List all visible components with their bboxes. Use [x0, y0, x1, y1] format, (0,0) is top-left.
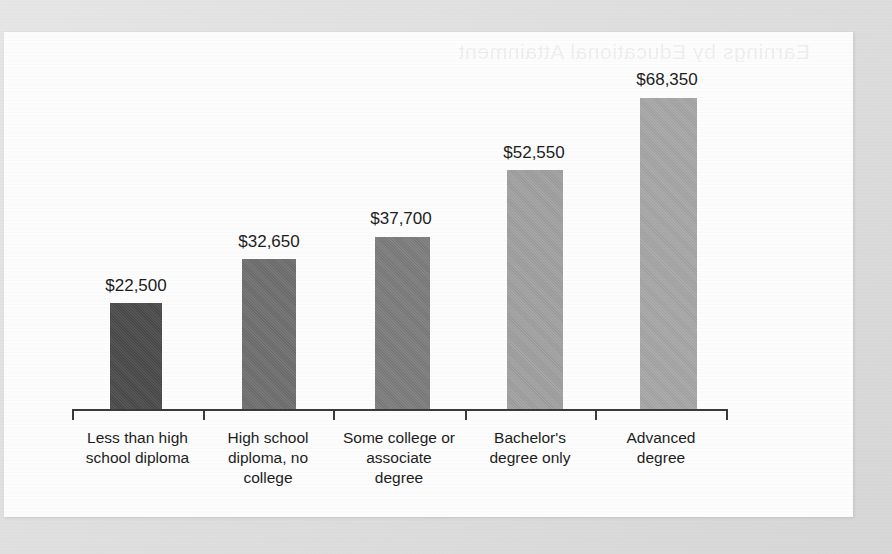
x-axis-tick	[595, 409, 597, 420]
bar	[375, 237, 430, 409]
x-axis-tick	[203, 409, 205, 420]
category-label-line: High school	[203, 428, 333, 448]
category-label-line: associate	[333, 448, 465, 468]
category-label-line: Advanced	[595, 428, 727, 448]
x-axis-category-label: High schooldiploma, nocollege	[203, 428, 333, 488]
bar-value-label: $22,500	[88, 276, 184, 296]
category-label-line: college	[203, 468, 333, 488]
category-label-line: Some college or	[333, 428, 465, 448]
bar	[640, 98, 697, 409]
x-axis-tick	[72, 409, 74, 420]
scanned-page-background: Earnings by Educational Attainment $22,5…	[0, 0, 892, 554]
x-axis-category-label: Some college orassociatedegree	[333, 428, 465, 488]
bar-value-label: $37,700	[353, 209, 449, 229]
x-axis-tick	[465, 409, 467, 420]
bar	[507, 170, 563, 409]
category-label-line: Bachelor's	[465, 428, 595, 448]
bar	[242, 259, 296, 409]
category-label-line: degree	[333, 468, 465, 488]
category-label-line: degree	[595, 448, 727, 468]
category-label-line: diploma, no	[203, 448, 333, 468]
x-axis-category-label: Bachelor'sdegree only	[465, 428, 595, 468]
bar-value-label: $68,350	[619, 70, 715, 90]
bar-chart: $22,500$32,650$37,700$52,550$68,350 Less…	[0, 0, 892, 554]
x-axis-category-label: Less than highschool diploma	[72, 428, 203, 468]
x-axis-end-tick	[726, 409, 728, 420]
bar-value-label: $52,550	[486, 143, 582, 163]
category-label-line: school diploma	[72, 448, 203, 468]
category-label-line: Less than high	[72, 428, 203, 448]
x-axis-line	[72, 409, 728, 411]
category-label-line: degree only	[465, 448, 595, 468]
x-axis-category-label: Advanceddegree	[595, 428, 727, 468]
bar	[110, 303, 162, 409]
x-axis-tick	[333, 409, 335, 420]
bar-value-label: $32,650	[221, 232, 317, 252]
